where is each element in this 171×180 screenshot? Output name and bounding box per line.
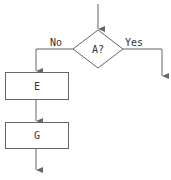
decision-label: A? [92, 44, 104, 55]
box-e-label: E [34, 81, 40, 92]
yes-label: Yes [125, 37, 143, 48]
yes-branch-line [123, 49, 162, 76]
process-box-g: G [6, 123, 69, 149]
process-box-e: E [6, 73, 69, 100]
decision-node: A? [73, 30, 123, 68]
no-label: No [50, 37, 62, 48]
box-g-label: G [34, 130, 40, 141]
no-branch-line [36, 49, 73, 71]
flowchart: A? No Yes E G [0, 0, 171, 180]
